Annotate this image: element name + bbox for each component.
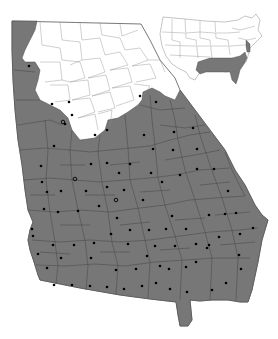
- us-inset-map: [160, 14, 262, 84]
- georgia-county-range-map: [0, 0, 278, 339]
